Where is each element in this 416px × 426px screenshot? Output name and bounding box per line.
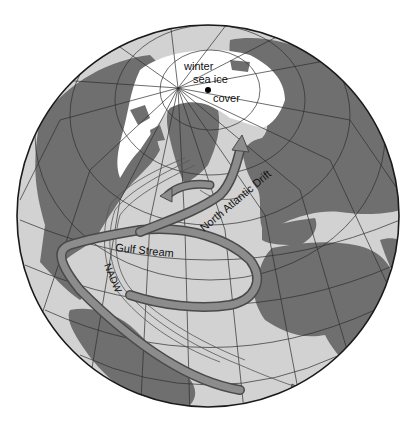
north-pole-marker [205,87,211,93]
label-cover: cover [213,92,240,104]
label-winter: winter [183,60,214,72]
label-sea-ice: sea ice [193,73,228,85]
atlantic-circulation-globe-map: winter sea ice cover Gulf Stream North A… [0,0,416,426]
